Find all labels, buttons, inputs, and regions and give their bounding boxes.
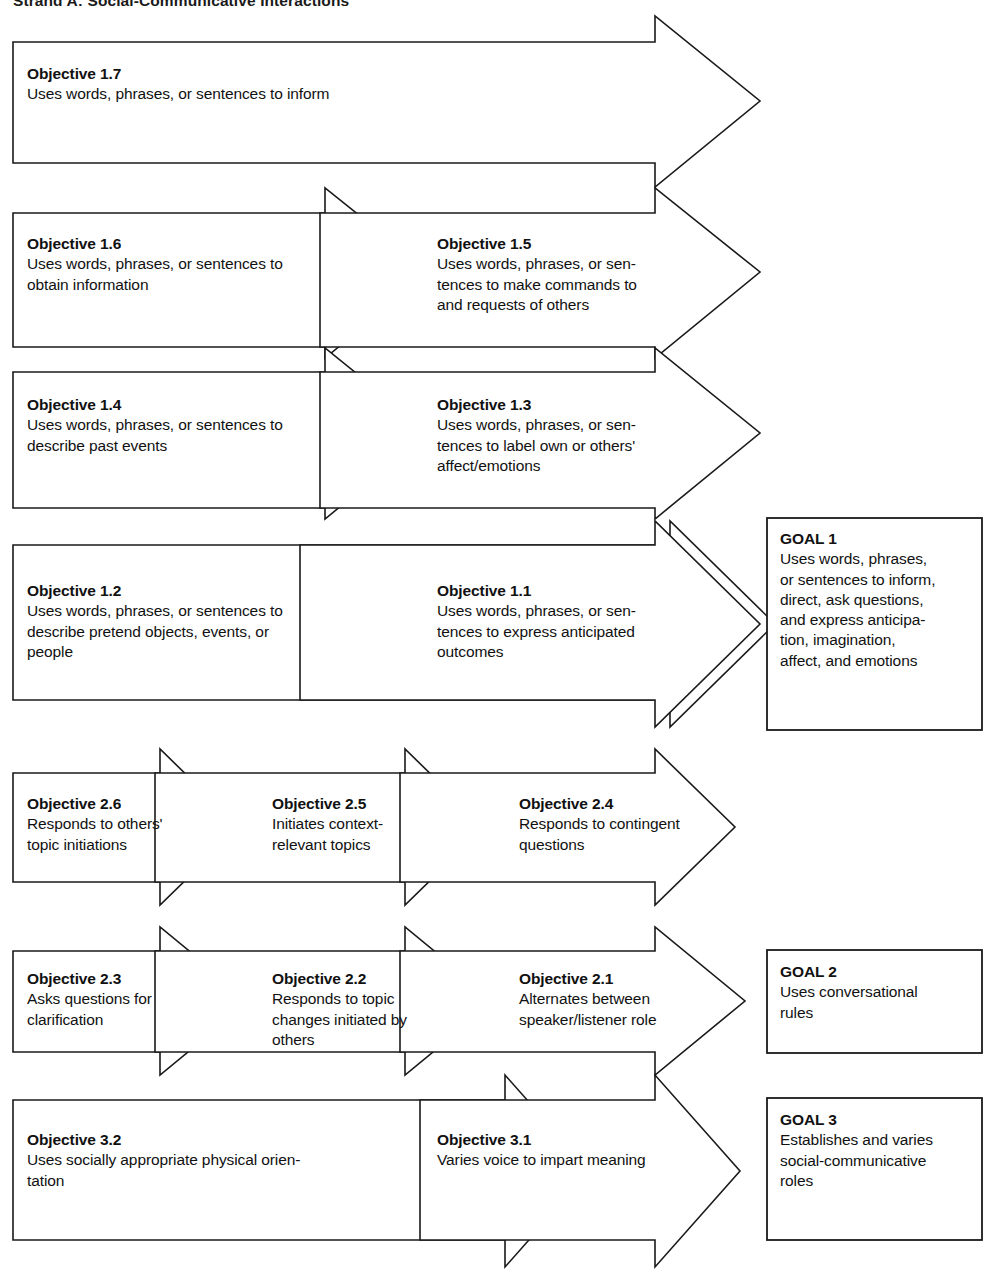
objective-2-1-heading: Objective 2.1 <box>519 970 719 988</box>
objective-2-4-body: Responds to contingent questions <box>519 814 724 855</box>
cell-objective-1-2: Objective 1.2 Uses words, phrases, or se… <box>27 582 347 662</box>
objective-1-5-heading: Objective 1.5 <box>437 235 667 253</box>
objective-2-5-heading: Objective 2.5 <box>272 795 422 813</box>
objective-3-2-heading: Objective 3.2 <box>27 1131 447 1149</box>
cell-objective-3-2: Objective 3.2 Uses socially appropriate … <box>27 1131 447 1191</box>
cell-objective-1-4: Objective 1.4 Uses words, phrases, or se… <box>27 396 327 456</box>
objective-1-5-body: Uses words, phrases, or sen- tences to m… <box>437 254 667 315</box>
objective-2-1-body: Alternates between speaker/listener role <box>519 989 719 1030</box>
objective-2-6-heading: Objective 2.6 <box>27 795 172 813</box>
goal-1-body: Uses words, phrases, or sentences to inf… <box>780 549 980 671</box>
goal-2-heading: GOAL 2 <box>780 963 980 981</box>
cell-objective-2-6: Objective 2.6 Responds to others' topic … <box>27 795 172 855</box>
cell-objective-1-3: Objective 1.3 Uses words, phrases, or se… <box>437 396 672 476</box>
objective-2-2-heading: Objective 2.2 <box>272 970 427 988</box>
cell-objective-1-5: Objective 1.5 Uses words, phrases, or se… <box>437 235 667 315</box>
objective-3-1-heading: Objective 3.1 <box>437 1131 727 1149</box>
objective-1-6-body: Uses words, phrases, or sentences to obt… <box>27 254 327 295</box>
cell-objective-2-4: Objective 2.4 Responds to contingent que… <box>519 795 724 855</box>
objective-2-3-body: Asks questions for clarification <box>27 989 177 1030</box>
cell-goal-1: GOAL 1 Uses words, phrases, or sentences… <box>780 530 980 671</box>
cell-objective-1-1: Objective 1.1 Uses words, phrases, or se… <box>437 582 672 662</box>
cell-goal-2: GOAL 2 Uses conversational rules <box>780 963 980 1023</box>
objective-2-6-body: Responds to others' topic initiations <box>27 814 172 855</box>
objective-1-7-body: Uses words, phrases, or sentences to inf… <box>27 84 447 104</box>
cell-objective-2-3: Objective 2.3 Asks questions for clarifi… <box>27 970 177 1030</box>
objective-1-3-heading: Objective 1.3 <box>437 396 672 414</box>
arrow-objective-3-1 <box>420 1075 740 1267</box>
goal-3-body: Establishes and varies social-communicat… <box>780 1130 980 1191</box>
objective-2-5-body: Initiates context- relevant topics <box>272 814 422 855</box>
objective-1-6-heading: Objective 1.6 <box>27 235 327 253</box>
objective-1-3-body: Uses words, phrases, or sen- tences to l… <box>437 415 672 476</box>
objective-1-2-heading: Objective 1.2 <box>27 582 347 600</box>
objective-2-2-body: Responds to topic changes initiated by o… <box>272 989 427 1050</box>
cell-objective-2-2: Objective 2.2 Responds to topic changes … <box>272 970 427 1050</box>
objective-1-7-heading: Objective 1.7 <box>27 65 447 83</box>
cell-objective-2-1: Objective 2.1 Alternates between speaker… <box>519 970 719 1030</box>
goal-3-heading: GOAL 3 <box>780 1111 980 1129</box>
objective-1-1-heading: Objective 1.1 <box>437 582 672 600</box>
objective-2-3-heading: Objective 2.3 <box>27 970 177 988</box>
objective-3-1-body: Varies voice to impart meaning <box>437 1150 727 1170</box>
objective-1-2-body: Uses words, phrases, or sentences to des… <box>27 601 347 662</box>
objective-2-4-heading: Objective 2.4 <box>519 795 724 813</box>
page-title: Strand A: Social-Communicative Interacti… <box>13 0 349 10</box>
cell-objective-1-6: Objective 1.6 Uses words, phrases, or se… <box>27 235 327 295</box>
cell-objective-1-7: Objective 1.7 Uses words, phrases, or se… <box>27 65 447 105</box>
goal-1-heading: GOAL 1 <box>780 530 980 548</box>
cell-goal-3: GOAL 3 Establishes and varies social-com… <box>780 1111 980 1191</box>
objective-1-4-body: Uses words, phrases, or sentences to des… <box>27 415 327 456</box>
objective-3-2-body: Uses socially appropriate physical orien… <box>27 1150 447 1191</box>
objective-1-1-body: Uses words, phrases, or sen- tences to e… <box>437 601 672 662</box>
goal-2-body: Uses conversational rules <box>780 982 980 1023</box>
cell-objective-2-5: Objective 2.5 Initiates context- relevan… <box>272 795 422 855</box>
cell-objective-3-1: Objective 3.1 Varies voice to impart mea… <box>437 1131 727 1171</box>
objective-1-4-heading: Objective 1.4 <box>27 396 327 414</box>
